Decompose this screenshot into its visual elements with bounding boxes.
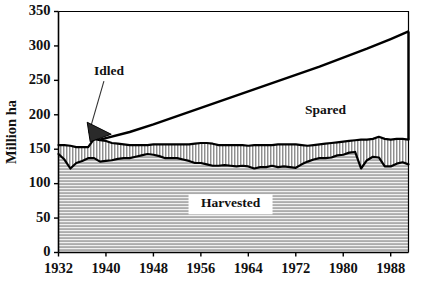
x-tick-label: 1964 [234, 260, 263, 276]
x-tick-label: 1956 [186, 260, 215, 276]
x-tick-label: 1988 [376, 260, 405, 276]
y-axis-title: Million ha [3, 99, 19, 164]
y-tick-label: 50 [36, 209, 51, 225]
x-tick-label: 1932 [44, 260, 73, 276]
y-tick-label: 300 [29, 37, 51, 53]
y-tick-label: 0 [43, 243, 50, 259]
x-tick-label: 1980 [329, 260, 358, 276]
chart-container: 0501001502002503003501932194019481956196… [0, 0, 423, 285]
y-tick-label: 350 [29, 2, 51, 18]
x-tick-label: 1948 [139, 260, 168, 276]
x-tick-label: 1940 [91, 260, 120, 276]
harvested-series-label: Harvested [201, 195, 261, 210]
land-use-area-chart: 0501001502002503003501932194019481956196… [0, 0, 423, 285]
y-tick-label: 200 [29, 106, 51, 122]
y-tick-label: 100 [29, 174, 51, 190]
x-tick-label: 1972 [281, 260, 310, 276]
y-tick-label: 150 [29, 140, 51, 156]
spared-series-label: Spared [305, 102, 347, 117]
y-tick-label: 250 [29, 71, 51, 87]
idled-series-label: Idled [94, 63, 125, 78]
